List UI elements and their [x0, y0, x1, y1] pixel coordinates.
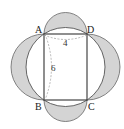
- dimension-label-ab: 6: [51, 63, 56, 73]
- shaded-lunes: [11, 13, 120, 122]
- diagram-canvas: A D B C 4 6: [0, 0, 124, 129]
- lune-right: [87, 34, 120, 100]
- vertex-label-a: A: [35, 24, 43, 35]
- lune-left: [11, 34, 44, 100]
- vertex-label-d: D: [87, 24, 94, 35]
- vertex-label-c: C: [88, 101, 95, 112]
- semicircle-outlines: [11, 13, 120, 122]
- geometry-figure: A D B C 4 6: [0, 0, 124, 129]
- dimension-label-ad: 4: [63, 38, 68, 48]
- vertex-label-b: B: [35, 101, 42, 112]
